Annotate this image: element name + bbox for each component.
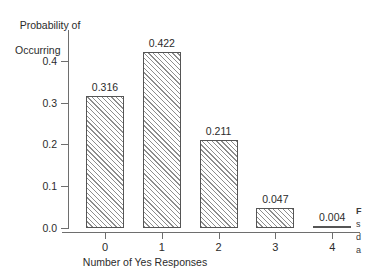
y-tick-mark bbox=[61, 61, 68, 62]
caption-head: F bbox=[356, 205, 368, 218]
bar bbox=[313, 226, 351, 228]
y-tick-label: 0.2 bbox=[42, 138, 57, 150]
x-tick-mark bbox=[219, 233, 220, 239]
x-tick-mark bbox=[332, 233, 333, 239]
y-tick-label: 0.4 bbox=[42, 55, 57, 67]
y-tick-label: 0.0 bbox=[42, 222, 57, 234]
x-tick-label: 3 bbox=[272, 241, 278, 253]
bar-value-label: 0.004 bbox=[319, 211, 345, 223]
caption-line-2: s bbox=[356, 218, 368, 231]
bar-chart-figure: Probability of Occurring 0.00.10.20.30.4… bbox=[0, 0, 368, 275]
y-tick-mark bbox=[61, 144, 68, 145]
x-tick-label: 2 bbox=[216, 241, 222, 253]
bar-value-label: 0.316 bbox=[92, 81, 118, 93]
y-tick-mark bbox=[61, 228, 68, 229]
bar-value-label: 0.422 bbox=[149, 37, 175, 49]
y-tick-label: 0.3 bbox=[42, 97, 57, 109]
caption-line-4: a bbox=[356, 244, 368, 257]
x-tick-mark bbox=[275, 233, 276, 239]
x-tick-mark bbox=[105, 233, 106, 239]
x-tick-label: 0 bbox=[102, 241, 108, 253]
x-tick-label: 4 bbox=[329, 241, 335, 253]
bar-value-label: 0.047 bbox=[262, 193, 288, 205]
bar bbox=[143, 52, 181, 228]
y-tick-mark bbox=[61, 186, 68, 187]
y-axis-title-line1: Probability of bbox=[20, 19, 81, 31]
bar bbox=[256, 208, 294, 228]
y-tick-mark bbox=[61, 103, 68, 104]
y-tick-label: 0.1 bbox=[42, 180, 57, 192]
x-axis-title-text: Number of Yes Responses bbox=[83, 256, 207, 268]
y-axis-line bbox=[68, 30, 69, 229]
figure-caption: F s d a bbox=[356, 205, 368, 257]
x-axis-line bbox=[62, 232, 360, 233]
caption-line-3: d bbox=[356, 231, 368, 244]
bar bbox=[200, 140, 238, 228]
x-tick-mark bbox=[162, 233, 163, 239]
x-axis-title: Number of Yes Responses bbox=[0, 256, 368, 268]
x-tick-label: 1 bbox=[159, 241, 165, 253]
y-axis-title: Probability of Occurring bbox=[8, 6, 80, 81]
bar bbox=[86, 96, 124, 228]
bar-value-label: 0.211 bbox=[206, 125, 232, 137]
